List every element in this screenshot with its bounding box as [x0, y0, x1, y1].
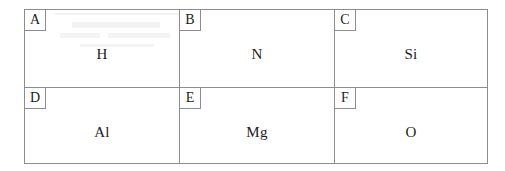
- cell-label-d: D: [24, 87, 46, 109]
- cell-value-b: N: [180, 34, 334, 63]
- cell-value-e: Mg: [180, 110, 334, 141]
- grid-cell-b[interactable]: B N: [180, 10, 335, 88]
- grid-cell-d[interactable]: D Al: [25, 88, 180, 164]
- cell-label-b: B: [179, 9, 201, 31]
- cell-label-a: A: [24, 9, 46, 31]
- cell-label-f: F: [334, 87, 356, 109]
- table-row: D Al E Mg F O: [25, 88, 488, 164]
- cell-label-e: E: [179, 87, 201, 109]
- grid-cell-f[interactable]: F O: [335, 88, 488, 164]
- grid-cell-e[interactable]: E Mg: [180, 88, 335, 164]
- document-sheet: A H B N C Si D Al E Mg: [0, 0, 505, 171]
- element-grid-table: A H B N C Si D Al E Mg: [24, 9, 488, 164]
- cell-value-c: Si: [335, 34, 487, 63]
- cell-value-d: Al: [25, 110, 179, 141]
- cell-value-a: H: [25, 34, 179, 63]
- grid-cell-c[interactable]: C Si: [335, 10, 488, 88]
- cell-value-f: O: [335, 110, 487, 141]
- cell-label-c: C: [334, 9, 356, 31]
- table-row: A H B N C Si: [25, 10, 488, 88]
- grid-cell-a[interactable]: A H: [25, 10, 180, 88]
